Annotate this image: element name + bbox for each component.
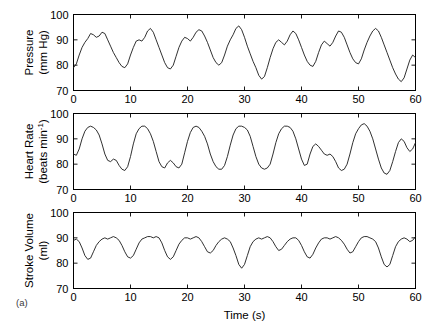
- y-axis-label-superscript: -1: [36, 122, 45, 130]
- x-tick-label: 20: [181, 93, 193, 105]
- x-tick-label: 10: [124, 93, 136, 105]
- y-axis-label: Heart Rate(beats min-1): [23, 119, 49, 184]
- y-tick-label: 100: [50, 207, 68, 219]
- x-tick-label: 20: [181, 192, 193, 204]
- x-tick-label: 10: [124, 192, 136, 204]
- x-tick-label: 60: [409, 93, 421, 105]
- x-tick-label: 50: [352, 93, 364, 105]
- x-tick-label: 60: [409, 192, 421, 204]
- y-tick-label: 80: [56, 158, 68, 170]
- y-axis-label-line1: Stroke Volume: [23, 213, 35, 288]
- figure-container: 0102030405060708090100Pressure(mm Hg)010…: [0, 0, 446, 324]
- plot-box: [74, 114, 416, 190]
- data-trace: [74, 124, 416, 175]
- x-tick-label: 40: [295, 93, 307, 105]
- x-tick-label: 30: [238, 291, 250, 303]
- x-tick-label: 10: [124, 291, 136, 303]
- y-axis-label: Pressure(mm Hg): [23, 29, 49, 75]
- y-axis-label-line2: (ml): [37, 240, 49, 260]
- x-tick-label: 30: [238, 93, 250, 105]
- x-tick-label: 40: [295, 291, 307, 303]
- y-tick-label: 100: [50, 9, 68, 21]
- x-tick-label: 0: [70, 93, 76, 105]
- data-trace: [74, 26, 416, 82]
- y-tick-label: 70: [56, 184, 68, 196]
- y-tick-label: 80: [56, 257, 68, 269]
- x-tick-label: 40: [295, 192, 307, 204]
- y-axis-label-line2: (beats min-1): [36, 119, 50, 184]
- plot-box: [74, 15, 416, 91]
- x-tick-label: 60: [409, 291, 421, 303]
- plot-panel-2: 0102030405060708090100Heart Rate(beats m…: [23, 108, 422, 204]
- x-tick-label: 50: [352, 291, 364, 303]
- x-tick-label: 50: [352, 192, 364, 204]
- y-tick-label: 90: [56, 232, 68, 244]
- y-axis-label-line1: Pressure: [23, 29, 35, 75]
- y-tick-label: 70: [56, 85, 68, 97]
- x-tick-label: 0: [70, 291, 76, 303]
- y-tick-label: 70: [56, 283, 68, 295]
- plot-box: [74, 213, 416, 289]
- y-tick-label: 80: [56, 59, 68, 71]
- plot-panel-1: 0102030405060708090100Pressure(mm Hg): [23, 9, 422, 105]
- y-axis-label-line2: (mm Hg): [37, 30, 49, 75]
- y-tick-label: 90: [56, 34, 68, 46]
- x-tick-label: 0: [70, 192, 76, 204]
- physiological-timeseries-figure: 0102030405060708090100Pressure(mm Hg)010…: [0, 0, 446, 324]
- figure-panel-label: (a): [16, 297, 28, 308]
- data-trace: [74, 237, 416, 269]
- plot-panel-3: 0102030405060708090100Stroke Volume(ml): [23, 207, 422, 303]
- y-axis-label: Stroke Volume(ml): [23, 213, 49, 288]
- y-axis-label-line1: Heart Rate: [23, 124, 35, 180]
- x-tick-label: 30: [238, 192, 250, 204]
- y-tick-label: 100: [50, 108, 68, 120]
- x-tick-label: 20: [181, 291, 193, 303]
- x-axis-title: Time (s): [224, 309, 266, 321]
- y-tick-label: 90: [56, 133, 68, 145]
